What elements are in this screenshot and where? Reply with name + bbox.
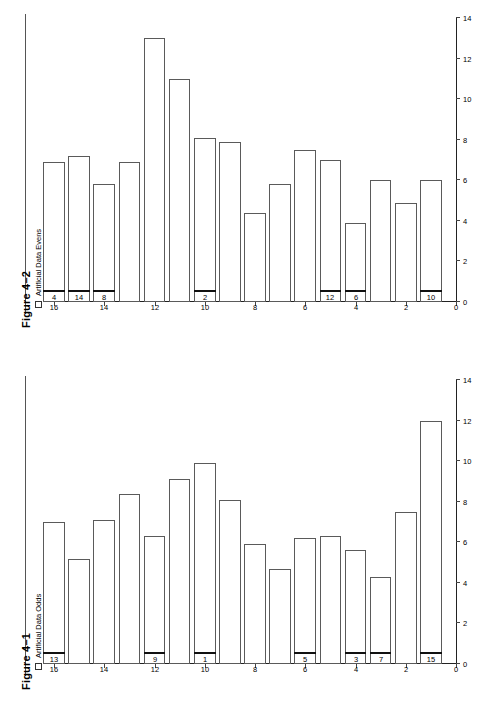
bar-value-label: 6 [353, 293, 357, 302]
category-axis-tick-label: 6 [303, 303, 307, 312]
bar [93, 184, 115, 302]
value-axis-tick [456, 98, 460, 99]
bar [345, 550, 367, 664]
bar-value-label: 9 [152, 655, 156, 664]
value-axis-tick-label: 6 [463, 176, 467, 185]
bar [43, 162, 65, 302]
value-axis-tick-label: 12 [463, 54, 471, 63]
value-axis-tick-label: 8 [463, 135, 467, 144]
value-axis-tick-label: 4 [463, 578, 467, 587]
figure-rotation-wrapper-4-2: Artificial Data Evens 024681012140246810… [0, 0, 497, 362]
figure-panel-4-1: Figure 4–1 Artificial Data Odds 02468101… [0, 362, 497, 724]
bar [320, 160, 342, 302]
value-axis-tick [456, 139, 460, 140]
category-axis-tick-label: 10 [201, 303, 209, 312]
plot-area-4-1: Artificial Data Odds 0246810121402468101… [26, 374, 478, 710]
figure-canvas-4-2: Artificial Data Evens 024681012140246810… [26, 12, 478, 348]
bar [119, 162, 141, 302]
category-axis-tick-label: 6 [303, 665, 307, 674]
value-axis-line [456, 18, 457, 302]
figure-rotation-wrapper-4-1: Artificial Data Odds 0246810121402468101… [0, 362, 497, 724]
bar-value-label: 13 [50, 655, 58, 664]
value-axis-tick-label: 12 [463, 416, 471, 425]
category-axis-tick-label: 14 [100, 303, 108, 312]
value-axis-tick [456, 220, 460, 221]
bar-value-label: 4 [52, 293, 56, 302]
bar [68, 559, 90, 664]
category-axis-tick-label: 12 [150, 665, 158, 674]
value-axis-tick [456, 501, 460, 502]
bar-value-label: 14 [75, 293, 83, 302]
bar [194, 463, 216, 664]
bar [144, 38, 166, 302]
bar-value-label: 12 [326, 293, 334, 302]
category-axis-tick-label: 0 [454, 303, 458, 312]
value-axis-tick-label: 2 [463, 619, 467, 628]
bar [420, 421, 442, 664]
bar [219, 500, 241, 664]
value-axis-tick-label: 10 [463, 457, 471, 466]
plot-area-4-2: Artificial Data Evens 024681012140246810… [26, 12, 478, 348]
bar-value-label: 15 [427, 655, 435, 664]
value-axis-tick [456, 622, 460, 623]
bar [144, 536, 166, 664]
value-axis-tick [456, 582, 460, 583]
legend-label: Artificial Data Odds [34, 594, 43, 658]
bar [169, 479, 191, 664]
legend-marker-icon [35, 301, 42, 308]
value-axis-tick [456, 420, 460, 421]
bar-value-label: 8 [102, 293, 106, 302]
value-axis-tick-label: 2 [463, 257, 467, 266]
legend-marker-icon [35, 663, 42, 670]
value-axis-tick-label: 8 [463, 497, 467, 506]
category-axis-tick-label: 8 [253, 303, 257, 312]
value-axis-tick-label: 4 [463, 216, 467, 225]
value-axis-tick [456, 17, 460, 18]
bar [420, 180, 442, 302]
bar [370, 577, 392, 664]
bar [244, 213, 266, 302]
legend-4-2: Artificial Data Evens [34, 229, 43, 308]
bar [269, 569, 291, 664]
bar [194, 138, 216, 302]
value-axis-tick-label: 10 [463, 95, 471, 104]
legend-label: Artificial Data Evens [34, 229, 43, 296]
value-axis-line [456, 380, 457, 664]
bar [320, 536, 342, 664]
bar-value-label: 1 [203, 655, 207, 664]
scanned-figure-page: Figure 4–2 Artificial Data Evens 0246810… [0, 0, 497, 724]
bar [43, 522, 65, 664]
category-axis-tick-label: 16 [50, 303, 58, 312]
value-axis-tick [456, 260, 460, 261]
category-axis-tick-label: 16 [50, 665, 58, 674]
figure-canvas-4-1: Artificial Data Odds 0246810121402468101… [26, 374, 478, 710]
bar-value-label: 5 [303, 655, 307, 664]
bar-value-label: 10 [427, 293, 435, 302]
category-axis-tick-label: 12 [150, 303, 158, 312]
bar [68, 156, 90, 302]
legend-4-1: Artificial Data Odds [34, 594, 43, 670]
bar [93, 520, 115, 664]
category-axis-tick-label: 8 [253, 665, 257, 674]
bar-value-label: 2 [203, 293, 207, 302]
value-axis-tick-label: 14 [463, 14, 471, 23]
category-axis-tick-label: 4 [353, 665, 357, 674]
category-axis-tick-label: 0 [454, 665, 458, 674]
value-axis-tick [456, 58, 460, 59]
category-axis-tick-label: 2 [404, 665, 408, 674]
bar [169, 79, 191, 302]
bar [294, 150, 316, 302]
category-axis-tick-label: 10 [201, 665, 209, 674]
value-axis-tick-label: 6 [463, 538, 467, 547]
value-axis-tick [456, 379, 460, 380]
bar-value-label: 7 [379, 655, 383, 664]
bar [395, 203, 417, 302]
category-axis-tick-label: 4 [353, 303, 357, 312]
category-axis-tick-label: 14 [100, 665, 108, 674]
bar [119, 494, 141, 664]
bar [395, 512, 417, 664]
value-axis-tick-label: 0 [463, 660, 467, 669]
value-axis-tick [456, 179, 460, 180]
bar [244, 544, 266, 664]
value-axis-tick-label: 0 [463, 298, 467, 307]
